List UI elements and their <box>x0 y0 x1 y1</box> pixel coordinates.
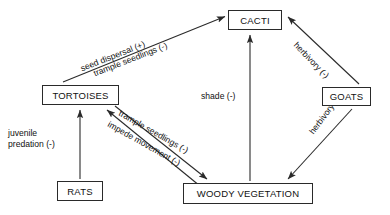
node-goats-label: GOATS <box>330 91 364 102</box>
edge-label-juvenile-predation: juvenile predation (-) <box>8 128 55 149</box>
node-rats-label: RATS <box>67 186 92 197</box>
edge-label-juvenile-predation-line1: juvenile <box>8 128 55 139</box>
node-rats[interactable]: RATS <box>57 181 103 201</box>
edge-label-juvenile-predation-line2: predation (-) <box>8 139 55 150</box>
node-tortoises-label: TORTOISES <box>52 90 108 101</box>
node-goats[interactable]: GOATS <box>322 87 371 106</box>
species-interaction-diagram: CACTI TORTOISES GOATS RATS WOODY VEGETAT… <box>0 0 390 215</box>
node-cacti-label: CACTI <box>240 15 270 26</box>
node-cacti[interactable]: CACTI <box>228 10 282 30</box>
node-woody-vegetation[interactable]: WOODY VEGETATION <box>183 183 313 204</box>
edge-label-shade: shade (-) <box>201 91 235 102</box>
node-tortoises[interactable]: TORTOISES <box>42 85 119 105</box>
node-woody-vegetation-label: WOODY VEGETATION <box>197 188 299 199</box>
